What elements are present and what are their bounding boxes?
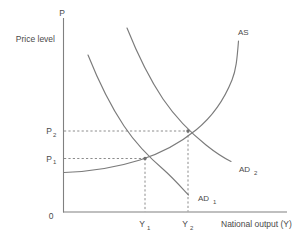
ad1-curve [88, 55, 189, 195]
x-tick-y1-label: Y [139, 219, 145, 229]
x-tick-y1-subscript: 1 [147, 225, 151, 231]
ad1-curve-label-text: AD [198, 194, 209, 203]
y-axis-name-label: Price level [16, 34, 55, 44]
ad2-curve-label-subscript: 2 [254, 170, 258, 176]
x-axis-name-label: National output (Y) [221, 219, 292, 229]
x-tick-y2-subscript: 2 [190, 225, 194, 231]
y-axis-symbol: P [59, 8, 65, 18]
as-curve-label: AS [238, 28, 249, 37]
equilibrium-point-1 [143, 157, 146, 160]
x-tick-y1: Y 1 [139, 219, 151, 231]
y-tick-p2-label: P [46, 126, 52, 136]
y-tick-p2-subscript: 2 [53, 132, 57, 138]
ad1-curve-label-subscript: 1 [213, 199, 217, 205]
ad2-curve-label: AD 2 [239, 165, 258, 176]
x-tick-y2: Y 2 [182, 219, 194, 231]
origin-label: 0 [49, 211, 54, 221]
y-tick-p1-subscript: 1 [53, 159, 57, 165]
ad-as-diagram: P Price level National output (Y) 0 P 2 … [0, 0, 300, 241]
chart-canvas: P Price level National output (Y) 0 P 2 … [0, 0, 300, 241]
y-tick-p1: P 1 [46, 154, 57, 166]
y-tick-p1-label: P [46, 154, 52, 164]
ad1-curve-label: AD 1 [198, 194, 217, 205]
y-tick-p2: P 2 [46, 126, 57, 138]
x-tick-y2-label: Y [182, 219, 188, 229]
as-curve-label-text: AS [238, 28, 249, 37]
ad2-curve-label-text: AD [239, 165, 250, 174]
equilibrium-point-2 [186, 129, 189, 132]
